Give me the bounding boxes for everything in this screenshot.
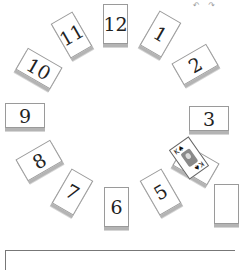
pile-9[interactable]: 9 [5, 103, 45, 128]
bottom-panel [5, 250, 235, 270]
pile-label: 1 [150, 21, 171, 46]
pile-label: 5 [150, 179, 171, 204]
pile-11[interactable]: 11 [51, 11, 93, 58]
pile-12[interactable]: 12 [103, 4, 128, 44]
pile-label: 12 [103, 13, 127, 35]
pile-label: 7 [62, 179, 83, 204]
pile-7[interactable]: 7 [52, 168, 94, 215]
pile-1[interactable]: 1 [140, 10, 182, 57]
pile-5[interactable]: 5 [140, 168, 182, 215]
pile-label: 8 [28, 148, 49, 173]
pile-label: 3 [203, 108, 215, 130]
pile-label: 9 [19, 105, 31, 127]
pile-6[interactable]: 6 [104, 187, 129, 227]
pile-10[interactable]: 10 [15, 48, 62, 90]
pile-extra-right[interactable] [214, 184, 239, 224]
pile-label: 2 [184, 52, 205, 77]
pile-label: 11 [56, 19, 88, 50]
toolbar-icons[interactable]: ↶ ↷ [193, 1, 218, 10]
pile-label: 10 [23, 53, 55, 84]
pile-label: 6 [110, 196, 122, 218]
pile-2[interactable]: 2 [171, 44, 218, 86]
pile-3[interactable]: 3 [189, 106, 229, 131]
pile-8[interactable]: 8 [15, 140, 62, 182]
